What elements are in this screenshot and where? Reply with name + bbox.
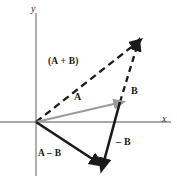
vector-b-label: B (131, 86, 138, 96)
vector-negative-b-label: – B (116, 137, 131, 147)
vector-a-plus-b-label: (A + B) (48, 57, 79, 67)
vector-diagram-figure: y x (A + B) A B – B A – B (0, 0, 177, 181)
y-axis-label: y (31, 4, 36, 14)
vector-diagram-canvas (0, 0, 177, 181)
vector-a-minus-b-label: A – B (38, 149, 61, 159)
vector-a-label: A (74, 92, 81, 102)
x-axis-label: x (162, 114, 167, 124)
vector-negative-b (104, 102, 120, 161)
